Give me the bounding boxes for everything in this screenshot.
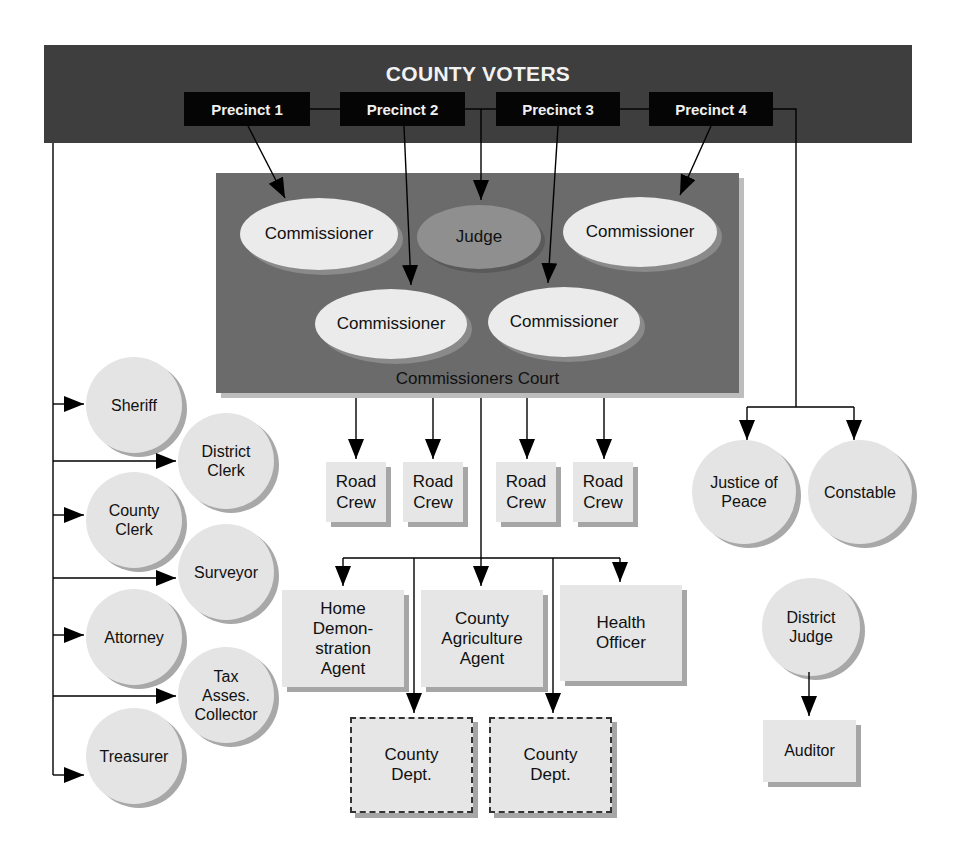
district-judge-label: District Judge: [787, 608, 836, 646]
county-government-diagram: COUNTY VOTERS Precinct 1 Precinct 2 Prec…: [0, 0, 962, 862]
treasurer-label: Treasurer: [100, 747, 169, 766]
justice-of-peace-label: Justice of Peace: [710, 473, 778, 511]
county-dept-label: County Dept.: [385, 745, 439, 785]
road-crew-label: Road Crew: [336, 471, 377, 513]
county-agriculture-agent-label: County Agriculture Agent: [441, 609, 522, 669]
attorney-label: Attorney: [104, 628, 164, 647]
constable-label: Constable: [824, 483, 896, 502]
health-officer-label: Health Officer: [596, 613, 646, 653]
district-clerk-label: District Clerk: [202, 442, 251, 480]
commissioner-precinct-4: Commissioner: [563, 197, 717, 267]
county-dept-label: County Dept.: [524, 745, 578, 785]
commissioner-precinct-3: Commissioner: [488, 287, 640, 357]
county-voters-banner: COUNTY VOTERS: [44, 45, 912, 143]
precinct-3: Precinct 3: [496, 92, 620, 126]
sheriff-label: Sheriff: [111, 396, 157, 415]
court-label: Commissioners Court: [216, 369, 739, 389]
road-crew-3: Road Crew: [496, 462, 556, 522]
auditor-label: Auditor: [784, 742, 835, 760]
attorney-node: Attorney: [86, 589, 182, 685]
home-demonstration-agent: Home Demon- stration Agent: [282, 590, 404, 687]
banner-title: COUNTY VOTERS: [44, 62, 912, 86]
commissioner-precinct-1: Commissioner: [240, 198, 398, 270]
road-crew-label: Road Crew: [413, 471, 454, 513]
county-agriculture-agent: County Agriculture Agent: [421, 590, 543, 687]
county-clerk-node: County Clerk: [86, 472, 182, 568]
district-judge-node: District Judge: [762, 578, 860, 676]
precinct-4: Precinct 4: [649, 92, 773, 126]
road-crew-2: Road Crew: [403, 462, 463, 522]
county-dept-1: County Dept.: [350, 717, 473, 813]
road-crew-1: Road Crew: [326, 462, 386, 522]
surveyor-node: Surveyor: [178, 524, 274, 620]
tax-assessor-collector-label: Tax Asses. Collector: [194, 667, 257, 724]
surveyor-label: Surveyor: [194, 563, 258, 582]
county-judge: Judge: [417, 205, 541, 269]
county-clerk-label: County Clerk: [109, 501, 160, 539]
sheriff-node: Sheriff: [86, 357, 182, 453]
health-officer: Health Officer: [560, 585, 682, 681]
district-clerk-node: District Clerk: [178, 413, 274, 509]
treasurer-node: Treasurer: [86, 708, 182, 804]
justice-of-peace-node: Justice of Peace: [692, 440, 796, 544]
road-crew-4: Road Crew: [573, 462, 633, 522]
home-demonstration-agent-label: Home Demon- stration Agent: [313, 599, 373, 679]
precinct-2: Precinct 2: [340, 92, 465, 126]
commissioner-precinct-2: Commissioner: [315, 289, 467, 359]
constable-node: Constable: [808, 440, 912, 544]
road-crew-label: Road Crew: [506, 471, 547, 513]
county-dept-2: County Dept.: [489, 717, 612, 813]
auditor-node: Auditor: [763, 720, 856, 782]
tax-assessor-collector-node: Tax Asses. Collector: [178, 647, 274, 743]
road-crew-label: Road Crew: [583, 471, 624, 513]
precinct-1: Precinct 1: [184, 92, 310, 126]
